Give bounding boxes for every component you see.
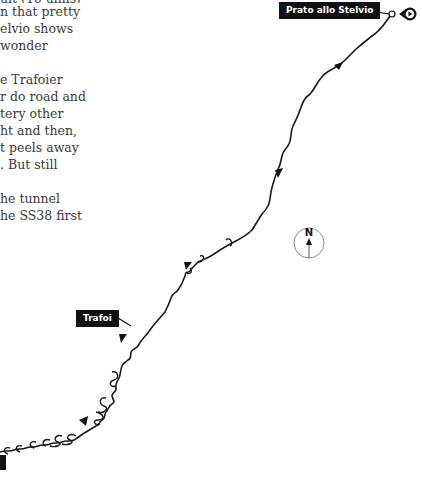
north-arrow-icon (306, 238, 312, 245)
place-label-prato-allo-stelvio: Prato allo Stelvio (279, 2, 380, 19)
trafoi-label-leader (118, 318, 131, 326)
start-point-marker (389, 11, 395, 17)
direction-arrow-icon (334, 62, 343, 70)
direction-arrows (79, 62, 343, 426)
route-map: N (0, 0, 422, 484)
bottom-partial-label (0, 455, 6, 470)
switchbacks (4, 239, 231, 454)
direction-arrow-icon (119, 334, 127, 343)
route-path (0, 16, 390, 452)
compass: N (294, 227, 324, 258)
place-label-trafoi: Trafoi (76, 310, 119, 327)
direction-arrow-icon (79, 416, 88, 426)
play-circle-icon[interactable] (399, 8, 417, 21)
compass-letter: N (305, 227, 313, 238)
